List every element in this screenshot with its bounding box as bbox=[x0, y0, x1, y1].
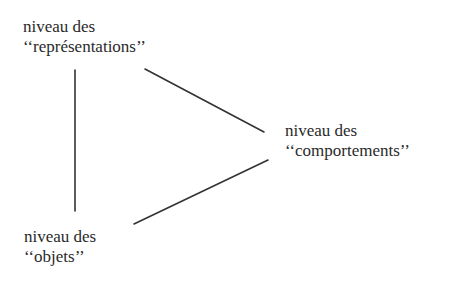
edge-objets-comportements bbox=[134, 160, 268, 224]
node-representations-line1: niveau des bbox=[23, 17, 146, 37]
node-comportements-line1: niveau des bbox=[285, 121, 410, 141]
node-comportements: niveau des ‘‘comportements’’ bbox=[285, 121, 410, 161]
node-comportements-line2: ‘‘comportements’’ bbox=[285, 141, 410, 161]
diagram-canvas: niveau des ‘‘représentations’’ niveau de… bbox=[0, 0, 463, 285]
node-objets-line2: ‘‘objets’’ bbox=[24, 247, 96, 267]
node-objets: niveau des ‘‘objets’’ bbox=[24, 227, 96, 267]
node-representations: niveau des ‘‘représentations’’ bbox=[23, 17, 146, 57]
node-objets-line1: niveau des bbox=[24, 227, 96, 247]
edge-representations-comportements bbox=[145, 69, 264, 132]
node-representations-line2: ‘‘représentations’’ bbox=[23, 37, 146, 57]
